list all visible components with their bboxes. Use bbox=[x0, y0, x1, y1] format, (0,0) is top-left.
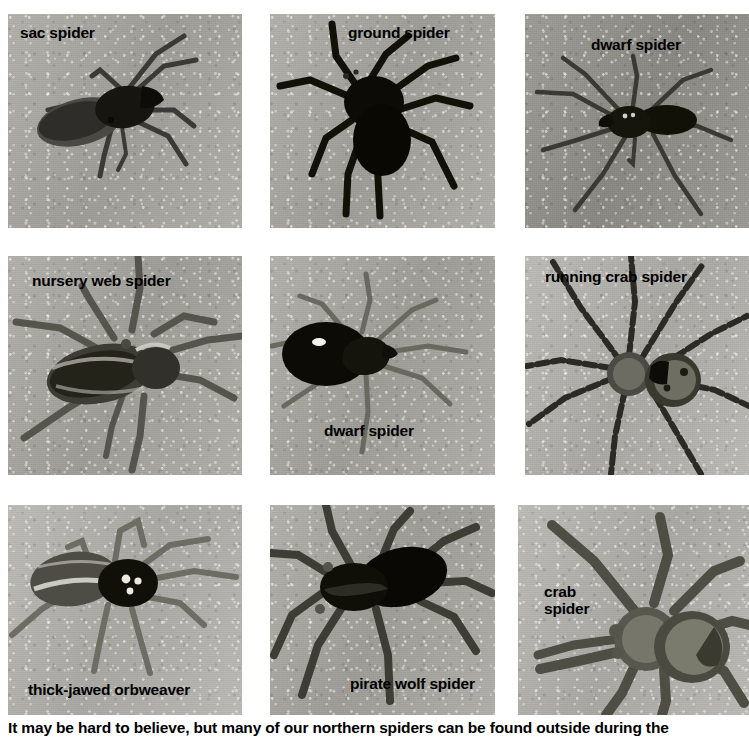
panel-running-crab-spider[interactable]: running crab spider bbox=[525, 256, 749, 475]
panel-label-sac-spider: sac spider bbox=[20, 24, 95, 41]
panel-ground-spider[interactable]: ground spider bbox=[270, 14, 495, 228]
spider-illustration-running-crab-spider bbox=[525, 256, 749, 475]
spider-illustration-ground-spider bbox=[270, 14, 495, 228]
panel-label-crab-spider-line2: spider bbox=[544, 600, 589, 617]
plate-caption: It may be hard to believe, but many of o… bbox=[8, 719, 749, 737]
panel-thick-jawed-orbweaver[interactable]: thick-jawed orbweaver bbox=[8, 505, 242, 715]
panel-label-dwarf-spider-middle: dwarf spider bbox=[324, 422, 414, 439]
panel-label-crab-spider: crab spider bbox=[544, 583, 589, 618]
panel-nursery-web-spider[interactable]: nursery web spider bbox=[8, 256, 242, 475]
spider-illustration-sac-spider bbox=[8, 14, 242, 228]
panel-label-thick-jawed-orbweaver: thick-jawed orbweaver bbox=[28, 681, 190, 698]
panel-label-dwarf-spider-top: dwarf spider bbox=[591, 36, 681, 53]
panel-dwarf-spider-middle[interactable]: dwarf spider bbox=[270, 256, 495, 475]
panel-crab-spider[interactable]: crab spider bbox=[518, 505, 749, 715]
panel-label-running-crab-spider: running crab spider bbox=[545, 268, 687, 285]
spider-photo-plate: sac spider ground spider bbox=[0, 0, 749, 741]
panel-dwarf-spider-top[interactable]: dwarf spider bbox=[525, 14, 749, 228]
panel-label-pirate-wolf-spider: pirate wolf spider bbox=[350, 675, 475, 692]
spider-illustration-dwarf-spider-middle bbox=[270, 256, 495, 475]
panel-sac-spider[interactable]: sac spider bbox=[8, 14, 242, 228]
panel-label-nursery-web-spider: nursery web spider bbox=[32, 272, 171, 289]
panel-label-ground-spider: ground spider bbox=[348, 24, 450, 41]
panel-label-crab-spider-line1: crab bbox=[544, 583, 576, 600]
panel-pirate-wolf-spider[interactable]: pirate wolf spider bbox=[270, 505, 495, 715]
